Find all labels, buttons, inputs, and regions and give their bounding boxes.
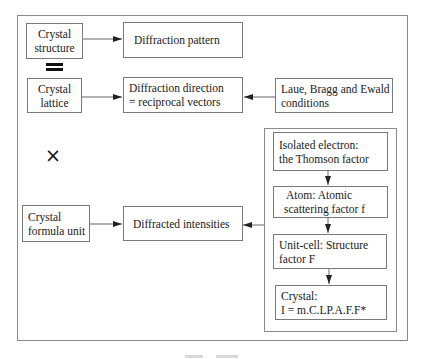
figure-caption-faint	[185, 351, 238, 359]
arrows-layer	[0, 0, 426, 359]
